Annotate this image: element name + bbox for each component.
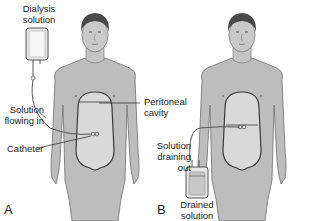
peritoneal-cavity-a — [76, 92, 114, 170]
label-dialysis-solution: Dialysis solution — [18, 3, 60, 25]
label-peritoneal-cavity: Peritoneal cavity — [144, 96, 187, 118]
label-solution-flowing-in: Solution flowing in — [0, 104, 44, 126]
figure-b-body — [198, 13, 286, 221]
panel-label-a: A — [4, 203, 13, 217]
peritoneal-cavity-b — [223, 92, 261, 170]
panel-label-b: B — [157, 203, 166, 217]
label-catheter: Catheter — [7, 143, 43, 154]
dialysis-solution-bag — [26, 28, 48, 80]
label-drained-solution: Drained solution — [176, 199, 218, 221]
label-solution-draining-out: Solution draining out — [155, 140, 191, 173]
figure-a-body — [51, 13, 139, 221]
